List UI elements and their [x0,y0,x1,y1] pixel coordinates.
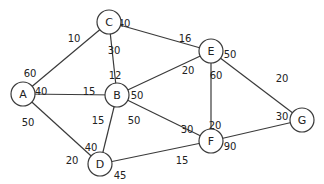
edge-weight-C-B-near-B: 12 [109,70,122,81]
edge-weight-B-D-near-B: 15 [92,115,105,126]
edge-weights-layer: 6010401550203012401650201540503060205020… [22,18,289,181]
edge-weight-E-G-near-G: 20 [276,73,289,84]
edge-weight-B-F-near-B: 50 [128,115,141,126]
edge-weight-D-F-near-F: 15 [176,155,189,166]
edge-A-C [23,22,109,94]
node-label: F [208,135,214,148]
edge-weight-F-G-near-G: 30 [276,111,289,122]
edge-weight-A-B-near-B: 15 [83,86,96,97]
edge-weight-A-D-near-A: 50 [22,117,35,128]
edge-weight-A-D-near-D: 20 [66,155,79,166]
edge-D-F [100,141,211,164]
edge-weight-B-D-near-D: 40 [85,142,98,153]
node-B: B [105,83,129,107]
node-label: E [208,45,215,58]
edge-B-E [117,51,211,95]
node-C: C [97,10,121,34]
edge-F-G [211,120,302,141]
edge-weight-A-C-near-A: 60 [24,68,37,79]
node-F: F [199,129,223,153]
edges-layer [23,22,302,164]
edge-weight-E-F-near-E: 60 [210,70,223,81]
node-G: G [290,108,314,132]
node-label: C [105,16,113,29]
node-label: A [19,88,27,101]
node-label: D [96,158,104,171]
weighted-graph-diagram: 6010401550203012401650201540503060205020… [0,0,324,184]
edge-weight-B-F-near-F: 30 [181,124,194,135]
edge-weight-C-B-near-C: 30 [108,45,121,56]
edge-weight-A-C-near-C: 10 [68,33,81,44]
edge-weight-B-E-near-B: 50 [131,90,144,101]
edge-weight-E-G-near-E: 50 [224,49,237,60]
edge-A-D [23,94,100,164]
node-D: D [88,152,112,176]
node-A: A [11,82,35,106]
node-label: G [298,114,307,127]
edge-weight-C-E-near-E: 16 [179,33,192,44]
node-label: B [113,89,121,102]
edge-weight-D-F-near-D: 45 [114,170,127,181]
edge-weight-F-G-near-F: 90 [224,141,237,152]
edge-weight-A-B-near-A: 40 [35,86,48,97]
edge-weight-B-E-near-E: 20 [182,65,195,76]
node-E: E [199,39,223,63]
